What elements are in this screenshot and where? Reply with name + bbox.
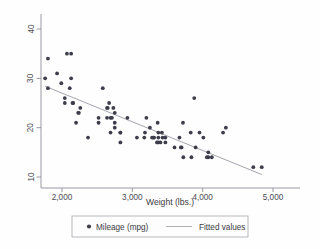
figure-background [0, 0, 320, 249]
y-tick-label-40: 40 [27, 24, 36, 34]
legend-marker-mileage [87, 224, 91, 228]
legend-label-fitted: Fitted values [199, 223, 245, 232]
data-point [190, 155, 194, 159]
scatter-plot-figure: 10203040 2,0003,0004,0005,000 Weight (lb… [0, 0, 320, 249]
data-point [163, 141, 167, 145]
data-point [113, 121, 117, 125]
data-point [201, 136, 205, 140]
data-point [181, 155, 185, 159]
chart-legend: Mileage (mpg) Fitted values [72, 216, 248, 237]
data-point [206, 150, 210, 154]
data-point [86, 136, 90, 140]
data-point [260, 165, 264, 169]
data-point [198, 131, 202, 135]
data-point [150, 136, 154, 140]
data-point [145, 116, 149, 120]
data-point [221, 131, 225, 135]
data-point [113, 126, 117, 130]
data-point [107, 101, 111, 105]
data-point [69, 76, 73, 80]
data-point [205, 155, 209, 159]
y-tick-label-10: 10 [27, 172, 36, 182]
data-point [178, 136, 182, 140]
data-point [118, 131, 122, 135]
data-point [59, 81, 63, 85]
x-tick-label-2000: 2,000 [52, 193, 73, 202]
data-point [65, 52, 69, 56]
data-point [68, 86, 72, 90]
data-point [161, 136, 165, 140]
data-point [189, 131, 193, 135]
data-point [160, 131, 164, 135]
data-point [63, 96, 67, 100]
data-point [69, 52, 73, 56]
data-point [179, 146, 183, 150]
x-tick-label-4000: 4,000 [192, 193, 213, 202]
data-point [224, 126, 228, 130]
data-point [46, 57, 50, 61]
data-point [77, 111, 81, 115]
data-point [210, 155, 214, 159]
data-point [181, 121, 185, 125]
data-point [113, 111, 117, 115]
data-point [105, 106, 109, 110]
data-point [143, 131, 147, 135]
data-point [118, 141, 122, 145]
data-point [156, 121, 160, 125]
data-point [156, 136, 160, 140]
data-point [105, 116, 109, 120]
data-point [251, 165, 255, 169]
data-point [148, 126, 152, 130]
data-point [97, 121, 101, 125]
data-point [71, 101, 75, 105]
data-point [142, 136, 146, 140]
x-axis-title: Weight (lbs.) [146, 197, 194, 207]
data-point [109, 116, 113, 120]
data-point [111, 106, 115, 110]
data-point [135, 136, 139, 140]
data-point [101, 86, 105, 90]
data-point [192, 96, 196, 100]
data-point [173, 146, 177, 150]
y-tick-label-20: 20 [27, 123, 36, 133]
data-point [156, 141, 160, 145]
data-point [78, 106, 82, 110]
data-point [109, 131, 113, 135]
legend-label-mileage: Mileage (mpg) [96, 223, 149, 232]
data-point [63, 101, 67, 105]
data-point [46, 86, 50, 90]
data-point [97, 116, 101, 120]
x-tick-label-5000: 5,000 [263, 193, 284, 202]
data-point [43, 76, 47, 80]
data-point [126, 116, 130, 120]
data-point [74, 121, 78, 125]
y-tick-label-30: 30 [27, 73, 36, 83]
plot-canvas: 10203040 2,0003,0004,0005,000 Weight (lb… [0, 0, 320, 249]
x-tick-label-3000: 3,000 [122, 193, 143, 202]
data-point [55, 72, 59, 76]
data-point [156, 131, 160, 135]
data-point [194, 146, 198, 150]
